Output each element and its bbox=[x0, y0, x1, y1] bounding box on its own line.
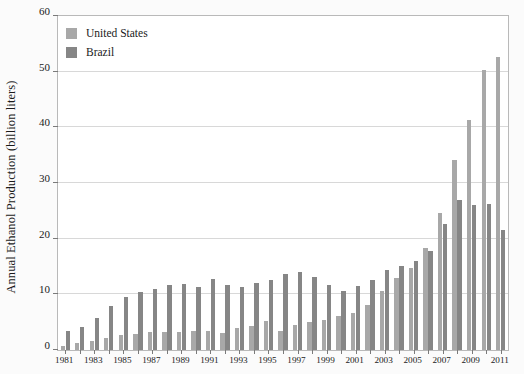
y-tick-10 bbox=[53, 293, 58, 294]
bar-br-1982 bbox=[80, 327, 84, 350]
x-tick-1985 bbox=[123, 350, 124, 354]
bar-br-1993 bbox=[240, 287, 244, 350]
bar-us-2011 bbox=[496, 57, 500, 350]
bar-us-1997 bbox=[293, 325, 297, 350]
bar-br-1992 bbox=[225, 285, 229, 350]
bar-br-1983 bbox=[95, 318, 99, 350]
bar-br-1997 bbox=[298, 272, 302, 350]
bar-br-1991 bbox=[211, 279, 215, 350]
bar-us-2006 bbox=[423, 248, 427, 350]
x-tick-1997 bbox=[298, 350, 299, 354]
x-tick-label-2011: 2011 bbox=[491, 355, 509, 365]
x-tick-label-2005: 2005 bbox=[403, 355, 421, 365]
bar-br-1985 bbox=[124, 297, 128, 350]
legend-label-united-states: United States bbox=[86, 28, 148, 40]
bar-us-1983 bbox=[90, 341, 94, 350]
x-tick-1987 bbox=[152, 350, 153, 354]
x-tick-2000 bbox=[341, 350, 342, 354]
bar-br-1994 bbox=[254, 283, 258, 350]
gridline-y-50 bbox=[58, 71, 508, 72]
y-tick-40 bbox=[53, 126, 58, 127]
bar-us-1989 bbox=[177, 332, 181, 350]
x-tick-2005 bbox=[414, 350, 415, 354]
bar-us-2002 bbox=[365, 305, 369, 350]
legend-item-brazil: Brazil bbox=[66, 43, 148, 62]
bar-us-1999 bbox=[322, 320, 326, 350]
y-tick-30 bbox=[53, 182, 58, 183]
bar-br-1996 bbox=[283, 274, 287, 350]
x-tick-2002 bbox=[370, 350, 371, 354]
x-tick-2011 bbox=[501, 350, 502, 354]
bar-br-1998 bbox=[312, 277, 316, 350]
bar-br-1995 bbox=[269, 280, 273, 350]
bar-br-1981 bbox=[66, 331, 70, 350]
y-tick-50 bbox=[53, 71, 58, 72]
x-tick-label-1987: 1987 bbox=[142, 355, 160, 365]
x-tick-label-1997: 1997 bbox=[287, 355, 305, 365]
y-tick-label-10: 10 bbox=[39, 283, 50, 295]
x-tick-2007 bbox=[443, 350, 444, 354]
x-tick-1999 bbox=[327, 350, 328, 354]
bar-us-2000 bbox=[336, 316, 340, 351]
bar-us-1984 bbox=[104, 338, 108, 350]
bar-br-1989 bbox=[182, 284, 186, 350]
y-tick-0 bbox=[53, 349, 58, 350]
gridline-y-30 bbox=[58, 182, 508, 183]
bar-us-1988 bbox=[162, 332, 166, 350]
x-tick-2004 bbox=[399, 350, 400, 354]
bar-br-1987 bbox=[153, 289, 157, 350]
x-tick-1990 bbox=[196, 350, 197, 354]
x-tick-2006 bbox=[428, 350, 429, 354]
bar-br-2010 bbox=[487, 204, 491, 350]
x-tick-1984 bbox=[109, 350, 110, 354]
legend-swatch-icon-brazil bbox=[66, 47, 77, 58]
x-tick-label-2007: 2007 bbox=[432, 355, 450, 365]
x-tick-label-1989: 1989 bbox=[171, 355, 189, 365]
x-tick-label-2003: 2003 bbox=[374, 355, 392, 365]
bar-br-1990 bbox=[196, 287, 200, 350]
bar-br-1988 bbox=[167, 285, 171, 350]
legend-item-united-states: United States bbox=[66, 24, 148, 43]
plot-area: 0102030405060 bbox=[57, 15, 509, 351]
x-tick-1991 bbox=[210, 350, 211, 354]
x-tick-label-1995: 1995 bbox=[258, 355, 276, 365]
bar-us-1986 bbox=[133, 334, 137, 350]
bar-br-2000 bbox=[341, 291, 345, 350]
x-tick-1994 bbox=[254, 350, 255, 354]
x-tick-label-1991: 1991 bbox=[200, 355, 218, 365]
bar-us-1982 bbox=[75, 343, 79, 350]
y-tick-label-60: 60 bbox=[39, 5, 50, 17]
x-tick-label-1993: 1993 bbox=[229, 355, 247, 365]
x-tick-1988 bbox=[167, 350, 168, 354]
bar-us-1985 bbox=[119, 335, 123, 350]
x-tick-label-1981: 1981 bbox=[55, 355, 73, 365]
y-tick-label-40: 40 bbox=[39, 116, 50, 128]
bar-br-2003 bbox=[385, 270, 389, 350]
bar-br-2007 bbox=[443, 224, 447, 350]
x-tick-1995 bbox=[268, 350, 269, 354]
x-tick-2003 bbox=[385, 350, 386, 354]
legend-swatch-icon-united-states bbox=[66, 28, 77, 39]
x-tick-label-1983: 1983 bbox=[84, 355, 102, 365]
x-tick-2008 bbox=[457, 350, 458, 354]
x-tick-2009 bbox=[472, 350, 473, 354]
x-tick-1993 bbox=[239, 350, 240, 354]
y-tick-label-50: 50 bbox=[39, 61, 50, 73]
bar-us-2007 bbox=[438, 213, 442, 350]
bar-br-2011 bbox=[501, 230, 505, 350]
bar-br-1999 bbox=[327, 285, 331, 350]
y-tick-label-30: 30 bbox=[39, 172, 50, 184]
bar-us-2005 bbox=[409, 268, 413, 350]
chart-legend: United States Brazil bbox=[66, 24, 148, 62]
bar-br-2001 bbox=[356, 286, 360, 350]
bar-br-1984 bbox=[109, 306, 113, 350]
bar-us-1996 bbox=[278, 331, 282, 350]
y-tick-label-0: 0 bbox=[45, 339, 51, 351]
x-tick-1989 bbox=[181, 350, 182, 354]
x-tick-label-2009: 2009 bbox=[462, 355, 480, 365]
bar-us-1992 bbox=[220, 333, 224, 350]
bar-br-2004 bbox=[399, 266, 403, 350]
x-tick-2010 bbox=[486, 350, 487, 354]
bar-br-1986 bbox=[138, 292, 142, 350]
x-tick-1982 bbox=[80, 350, 81, 354]
